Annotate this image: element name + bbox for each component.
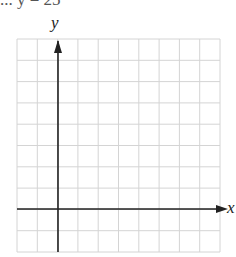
grid-lines [17,39,220,252]
y-axis-arrow-icon [54,40,62,53]
y-axis-label: y [51,13,59,33]
coordinate-grid [0,0,236,257]
x-axis-label: x [227,198,235,218]
